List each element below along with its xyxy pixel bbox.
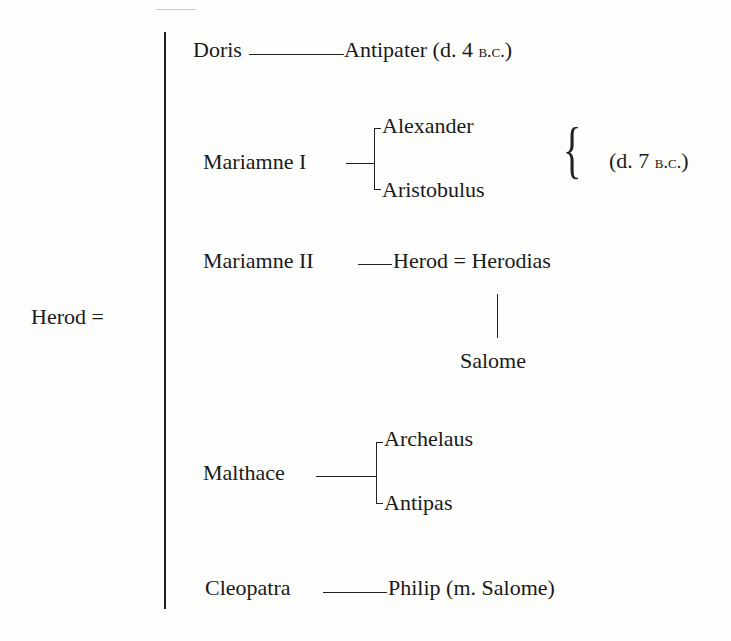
wife-cleopatra: Cleopatra: [205, 575, 291, 601]
bracket-malthace: [376, 442, 383, 504]
child-antipater: Antipater (d. 4 b.c.): [344, 37, 512, 64]
child-herod-philip: Herod = Herodias: [393, 248, 551, 274]
connector-doris: [249, 54, 344, 55]
connector-cleopatra: [323, 592, 387, 593]
child-philip: Philip (m. Salome): [388, 575, 555, 601]
root-equals: =: [91, 304, 103, 329]
wives-vertical-rule: [164, 32, 166, 609]
child-alexander: Alexander: [382, 113, 474, 139]
brace-icon: {: [563, 118, 581, 182]
connector-malthace: [316, 476, 376, 477]
root-herod: Herod =: [31, 304, 104, 330]
child-archelaus: Archelaus: [384, 426, 473, 452]
connector-mariamne-i: [346, 163, 374, 164]
grandchild-salome: Salome: [460, 348, 526, 374]
group-note-d7bc: (d. 7 b.c.): [609, 148, 689, 175]
connector-mariamne-ii: [358, 264, 392, 265]
root-name: Herod: [31, 304, 86, 329]
child-antipas: Antipas: [384, 490, 452, 516]
wife-mariamne-ii: Mariamne II: [203, 248, 314, 274]
child-aristobulus: Aristobulus: [382, 177, 485, 203]
page-fragment-rule: [156, 9, 196, 10]
wife-doris: Doris: [193, 37, 242, 63]
wife-malthace: Malthace: [203, 460, 285, 486]
descent-line-salome: [497, 294, 498, 338]
bracket-mariamne-i: [374, 128, 381, 190]
wife-mariamne-i: Mariamne I: [203, 149, 306, 175]
